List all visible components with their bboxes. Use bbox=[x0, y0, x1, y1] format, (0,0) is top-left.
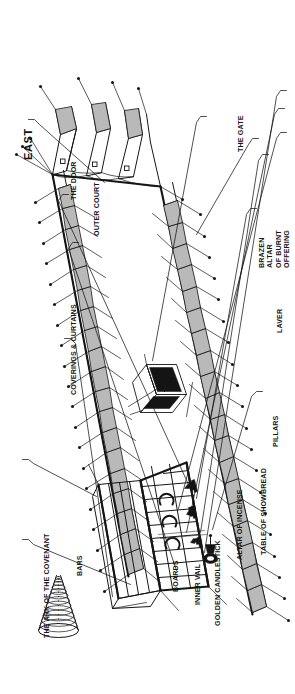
label-coverings-and-curtains: COVERINGS & CURTAINS bbox=[70, 304, 78, 395]
label-pillars: PILLARS bbox=[272, 416, 280, 447]
label-inner-vail: INNER VAIL bbox=[194, 564, 202, 605]
compass-east-label: EAST bbox=[22, 128, 34, 160]
label-bars: BARS bbox=[76, 555, 84, 576]
label-ark-of-the-covenant: THE ARK OF THE COVENANT bbox=[43, 534, 51, 638]
label-boards: BOARDS bbox=[172, 560, 180, 592]
figure-canvas: .s{fill:none;stroke:#161616;stroke-width… bbox=[0, 0, 295, 694]
label-laver: LAVER bbox=[276, 309, 284, 333]
label-table-of-showbread: TABLE OF SHOWBREAD bbox=[260, 468, 268, 555]
label-brazen-altar: BRAZEN ALTAR OF BURNT OFFERING bbox=[258, 230, 292, 268]
label-the-gate: THE GATE bbox=[237, 115, 245, 152]
label-golden-candlestick: GOLDEN CANDLESTICK bbox=[214, 540, 222, 626]
label-the-door: THE DOOR bbox=[70, 161, 78, 200]
label-outer-court: OUTER COURT bbox=[93, 182, 101, 236]
label-altar-of-incense: ALTAR OF INCENSE bbox=[236, 489, 244, 560]
